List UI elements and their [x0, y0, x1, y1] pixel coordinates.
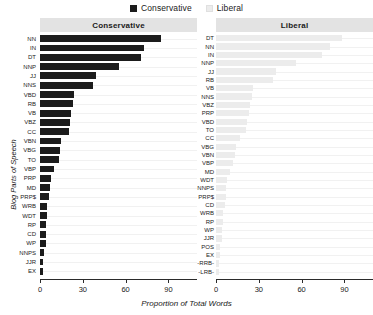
y-tick-label: VBD	[24, 92, 36, 98]
x-tick	[344, 280, 345, 283]
panel-title: Conservative	[92, 21, 145, 30]
y-tick-label: VBG	[201, 144, 214, 150]
x-tick-label: 90	[164, 285, 172, 294]
bar	[216, 244, 220, 250]
y-tick-label: VB	[28, 110, 36, 116]
y-tick-label: DT	[28, 54, 36, 60]
bar	[40, 100, 73, 107]
bar-row	[40, 91, 197, 98]
bar	[40, 147, 60, 154]
bar	[216, 135, 240, 141]
bar	[40, 231, 46, 238]
bar-row	[216, 135, 373, 141]
bar	[216, 152, 235, 158]
bar-row	[216, 35, 373, 41]
y-tick-label: IN	[30, 45, 36, 51]
x-tick-label: 0	[38, 285, 42, 294]
y-tick-label: VBN	[24, 138, 36, 144]
y-tick-label: POS	[201, 244, 214, 250]
bar-row	[216, 68, 373, 74]
y-tick-label: RB	[28, 101, 36, 107]
legend-label: Liberal	[217, 3, 243, 13]
bar-row	[40, 100, 197, 107]
bar-row	[216, 127, 373, 133]
bar-row	[40, 72, 197, 79]
bar-row	[216, 110, 373, 116]
y-tick-label: -RRB-	[197, 260, 214, 266]
bar	[40, 72, 96, 79]
y-tick-label: VBN	[202, 152, 214, 158]
bar	[216, 68, 276, 74]
bar	[216, 269, 219, 275]
y-tick-label: VB	[206, 85, 214, 91]
bar-row	[216, 177, 373, 183]
chart-figure: Conservative Liberal Conservative 030609…	[0, 0, 373, 315]
bar	[216, 110, 249, 116]
bar-row	[216, 119, 373, 125]
bar	[216, 260, 219, 266]
bar	[216, 85, 253, 91]
bar-row	[40, 184, 197, 191]
x-tick-label: 90	[340, 285, 348, 294]
bar	[216, 102, 250, 108]
y-tick-label: JJ	[208, 69, 214, 75]
panel-conservative: Conservative 0306090	[40, 18, 197, 280]
y-tick-label: VBZ	[24, 119, 36, 125]
bar	[40, 138, 61, 145]
bar-row	[40, 54, 197, 61]
bar	[40, 156, 59, 163]
bar-row	[216, 102, 373, 108]
bar	[216, 43, 330, 49]
y-tick-label: WDT	[200, 177, 214, 183]
bar-row	[216, 77, 373, 83]
bar-row	[40, 166, 197, 173]
legend-item-liberal: Liberal	[206, 3, 243, 13]
bar-row	[40, 156, 197, 163]
x-tick-label: 60	[297, 285, 305, 294]
panel-strip-liberal: Liberal	[216, 18, 373, 32]
bar-row	[216, 227, 373, 233]
bar-row	[40, 268, 197, 275]
x-tick-label: 30	[79, 285, 87, 294]
x-tick	[168, 280, 169, 283]
x-tick	[302, 280, 303, 283]
bar	[40, 166, 54, 173]
y-tick-label: EX	[28, 268, 36, 274]
bar	[40, 184, 50, 191]
bar	[216, 169, 230, 175]
y-tick-label: JJR	[204, 235, 214, 241]
y-tick-labels-conservative: NNINDTNNPJJNNSVBDRBVBVBZCCVBNVBGTOVBPPRP…	[0, 32, 38, 280]
bar-row	[216, 210, 373, 216]
legend-item-conservative: Conservative	[130, 3, 192, 13]
bar-row	[216, 219, 373, 225]
bar-row	[216, 260, 373, 266]
bar	[40, 45, 144, 52]
x-axis-line	[216, 279, 373, 280]
y-tick-label: NN	[205, 44, 214, 50]
bar	[216, 144, 236, 150]
y-tick-label: MD	[27, 185, 36, 191]
bar-row	[216, 43, 373, 49]
bar	[40, 128, 69, 135]
y-tick-label: VBD	[202, 119, 214, 125]
y-tick-label: -LRB-	[198, 269, 214, 275]
bar	[216, 35, 342, 41]
bar	[40, 54, 141, 61]
bar	[216, 93, 252, 99]
bar	[216, 210, 223, 216]
panel-body-liberal: 0306090	[216, 32, 373, 280]
x-axis-line	[40, 279, 197, 280]
bar	[40, 175, 51, 182]
y-tick-label: NNPS	[19, 250, 36, 256]
bar	[216, 235, 222, 241]
bar-row	[40, 231, 197, 238]
bar	[216, 160, 233, 166]
y-tick-label: NNS	[23, 82, 36, 88]
x-tick-label: 0	[214, 285, 218, 294]
y-tick-label: WRB	[22, 203, 36, 209]
bar-row	[40, 147, 197, 154]
y-tick-label: NNPS	[197, 185, 214, 191]
bar-row	[40, 203, 197, 210]
x-tick	[126, 280, 127, 283]
bar	[40, 82, 93, 89]
